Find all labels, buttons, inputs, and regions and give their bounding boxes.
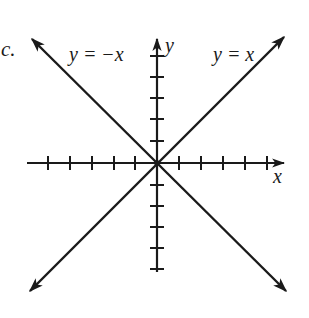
label-y-equals-neg-x: y = −x [67,43,124,66]
part-label: c. [1,37,16,61]
origin-point [154,160,160,166]
label-y-equals-x: y = x [211,43,254,66]
y-axis-label: y [163,34,174,57]
x-axis-label: x [272,165,282,187]
coordinate-graph: c. x [0,0,309,318]
y-axis: y [150,34,174,272]
